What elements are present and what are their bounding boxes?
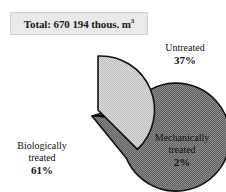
pie-label-mechanically-name-line2: treated (140, 144, 224, 156)
pie-chart-figure: Total: 670 194 thous. m3 (0, 0, 226, 192)
pie-label-biologically-name-line2: treated (2, 152, 82, 164)
pie-label-biologically-percent: 61% (2, 164, 82, 176)
pie-label-mechanically-percent: 2% (140, 156, 224, 168)
pie-label-mechanically-treated: Mechanically treated 2% (140, 132, 224, 168)
pie-label-untreated: Untreated 37% (146, 42, 224, 66)
pie-label-biologically-name-line1: Biologically (2, 140, 82, 152)
pie-label-biologically-treated: Biologically treated 61% (2, 140, 82, 176)
pie-label-untreated-percent: 37% (146, 54, 224, 66)
pie-label-untreated-name: Untreated (146, 42, 224, 54)
pie-label-mechanically-name-line1: Mechanically (140, 132, 224, 144)
